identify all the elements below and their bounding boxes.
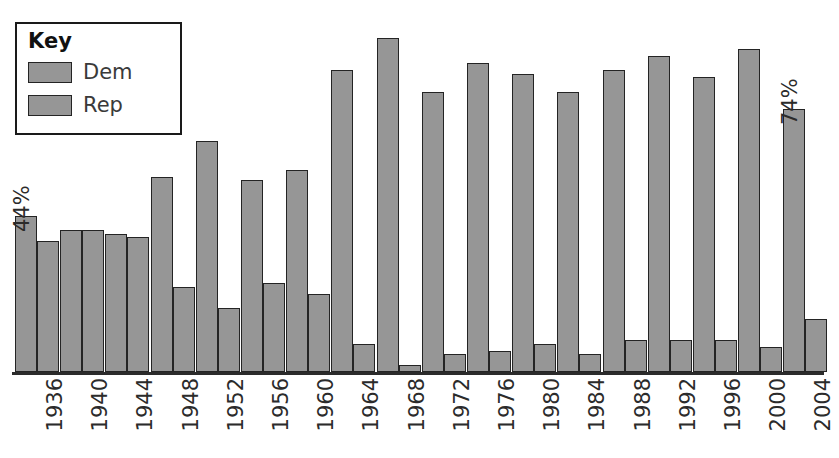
bar-dem-1972	[422, 92, 444, 372]
x-tick-label-2000: 2000	[766, 378, 790, 431]
bar-dem-1956	[241, 180, 263, 372]
bar-chart: 1936194019441948195219561960196419681972…	[0, 0, 839, 458]
legend-swatch-rep	[28, 95, 72, 116]
x-tick-label-1996: 1996	[721, 378, 745, 431]
x-tick-label-1960: 1960	[314, 378, 338, 431]
x-axis-tick-labels: 1936194019441948195219561960196419681972…	[0, 378, 839, 458]
bar-dem-2004	[783, 109, 805, 372]
x-tick-label-1940: 1940	[88, 378, 112, 431]
x-tick-label-1964: 1964	[359, 378, 383, 431]
bar-dem-1996	[693, 77, 715, 372]
bar-dem-1980	[512, 74, 534, 372]
bar-rep-1968	[399, 365, 421, 372]
bar-rep-1988	[625, 340, 647, 372]
bar-group	[196, 0, 240, 378]
legend-title: Key	[28, 30, 180, 52]
bar-rep-1972	[444, 354, 466, 372]
x-tick-label-1984: 1984	[585, 378, 609, 431]
bar-dem-1964	[331, 70, 353, 372]
bar-dem-1968	[377, 38, 399, 372]
legend-entry-dem: Dem	[28, 56, 180, 89]
bar-rep-2000	[760, 347, 782, 372]
bar-dem-1952	[196, 141, 218, 372]
bar-group	[557, 0, 601, 378]
bar-rep-1996	[715, 340, 737, 372]
bar-rep-1948	[173, 287, 195, 372]
bar-dem-1940	[60, 230, 82, 372]
x-tick-label-2004: 2004	[811, 378, 835, 431]
bar-rep-1944	[127, 237, 149, 372]
bar-dem-1988	[603, 70, 625, 372]
legend-swatch-dem	[28, 62, 72, 83]
value-label-dem-1936: 44%	[10, 185, 34, 232]
bar-group	[512, 0, 556, 378]
bar-rep-1992	[670, 340, 692, 372]
bar-group	[377, 0, 421, 378]
bar-dem-1960	[286, 170, 308, 372]
bar-rep-1940	[82, 230, 104, 372]
bar-dem-2000	[738, 49, 760, 372]
x-tick-label-1968: 1968	[405, 378, 429, 431]
bar-rep-1964	[353, 344, 375, 372]
bar-group	[648, 0, 692, 378]
bar-group	[286, 0, 330, 378]
x-axis-line	[12, 372, 824, 375]
x-tick-label-1936: 1936	[43, 378, 67, 431]
bar-group	[693, 0, 737, 378]
x-tick-label-1952: 1952	[224, 378, 248, 431]
bar-rep-1960	[308, 294, 330, 372]
x-tick-label-1944: 1944	[133, 378, 157, 431]
value-label-dem-2004: 74%	[778, 79, 802, 126]
bar-dem-1936	[15, 216, 37, 372]
x-tick-label-1976: 1976	[495, 378, 519, 431]
bar-group	[738, 0, 782, 378]
legend-key-box: Key Dem Rep	[15, 22, 182, 135]
x-tick-label-1948: 1948	[179, 378, 203, 431]
bar-rep-1952	[218, 308, 240, 372]
bar-dem-1992	[648, 56, 670, 372]
bar-dem-1948	[151, 177, 173, 372]
bar-rep-1980	[534, 344, 556, 372]
bar-rep-2004	[805, 319, 827, 372]
bar-group	[331, 0, 375, 378]
x-tick-label-1992: 1992	[676, 378, 700, 431]
bar-rep-1984	[579, 354, 601, 372]
bar-rep-1936	[37, 241, 59, 372]
bar-group	[783, 0, 827, 378]
legend-label-dem: Dem	[83, 62, 133, 83]
x-tick-label-1988: 1988	[631, 378, 655, 431]
bar-group	[422, 0, 466, 378]
bar-dem-1984	[557, 92, 579, 372]
x-tick-label-1972: 1972	[450, 378, 474, 431]
bar-group	[241, 0, 285, 378]
x-tick-label-1980: 1980	[540, 378, 564, 431]
legend-entry-rep: Rep	[28, 89, 180, 122]
bar-rep-1976	[489, 351, 511, 372]
x-tick-label-1956: 1956	[269, 378, 293, 431]
bar-rep-1956	[263, 283, 285, 372]
bar-dem-1976	[467, 63, 489, 372]
bar-group	[603, 0, 647, 378]
legend-label-rep: Rep	[83, 95, 123, 116]
bar-group	[467, 0, 511, 378]
bar-dem-1944	[105, 234, 127, 372]
